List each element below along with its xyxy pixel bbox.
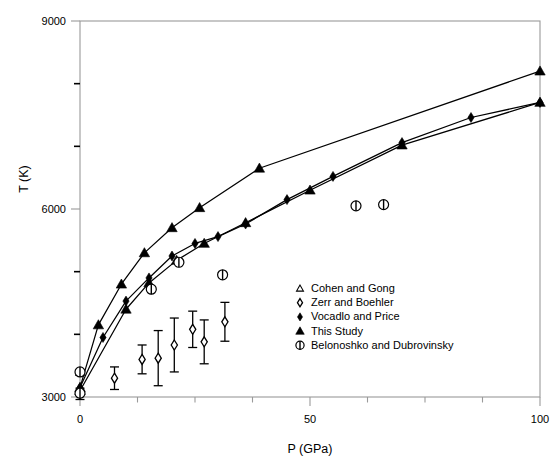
marker-open-diamond (190, 324, 196, 334)
chart-container: 050100P (GPa)300060009000T (K)Cohen and … (0, 0, 560, 458)
y-axis-label: T (K) (17, 165, 31, 193)
series-line (80, 102, 540, 390)
marker-open-triangle (297, 285, 304, 291)
x-tick-label: 0 (77, 413, 83, 425)
x-axis: 050100P (GPa) (77, 397, 549, 456)
marker-open-diamond (111, 373, 117, 383)
marker-open-diamond (139, 354, 145, 364)
marker-open-diamond (297, 299, 302, 307)
marker-filled-diamond (468, 113, 474, 123)
legend-label-2: Vocadlo and Price (311, 310, 400, 322)
temperature-pressure-chart: 050100P (GPa)300060009000T (K)Cohen and … (0, 0, 560, 458)
marker-filled-triangle (535, 66, 545, 75)
marker-filled-triangle (167, 223, 177, 232)
y-tick-label: 9000 (42, 15, 66, 27)
series-1 (76, 302, 230, 399)
marker-open-diamond (155, 353, 161, 363)
marker-open-diamond (201, 337, 207, 347)
y-tick-label: 6000 (42, 203, 66, 215)
marker-open-diamond (171, 340, 177, 350)
legend: Cohen and GongZerr and BoehlerVocadlo an… (296, 282, 454, 351)
marker-open-diamond (222, 317, 228, 327)
series-2 (77, 97, 543, 392)
marker-filled-triangle (535, 97, 545, 106)
marker-filled-triangle (296, 327, 305, 334)
legend-label-3: This Study (311, 325, 363, 337)
y-axis: 300060009000T (K) (17, 15, 80, 403)
plot-border (80, 21, 540, 397)
legend-label-1: Zerr and Boehler (311, 296, 394, 308)
x-tick-label: 50 (304, 413, 316, 425)
marker-filled-diamond (297, 313, 302, 321)
marker-filled-triangle (194, 203, 204, 212)
series-line (80, 102, 540, 387)
series-4 (75, 97, 545, 394)
marker-filled-diamond (192, 238, 198, 248)
plot-frame (80, 21, 540, 397)
y-tick-label: 3000 (42, 391, 66, 403)
legend-label-4: Belonoshko and Dubrovinsky (311, 339, 454, 351)
x-tick-label: 100 (531, 413, 549, 425)
marker-filled-triangle (116, 279, 126, 288)
marker-filled-triangle (93, 320, 103, 329)
legend-label-0: Cohen and Gong (311, 282, 395, 294)
x-axis-label: P (GPa) (288, 442, 333, 456)
series-3 (75, 66, 545, 392)
